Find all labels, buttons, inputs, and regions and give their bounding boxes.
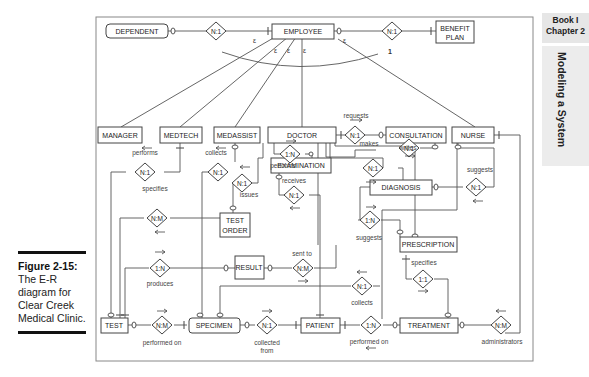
svg-text:N:1: N:1 xyxy=(350,132,361,139)
svg-text:collects: collects xyxy=(351,299,373,306)
rel-testorder-test[interactable]: N:M xyxy=(147,209,167,227)
svg-text:N:1: N:1 xyxy=(471,184,482,191)
svg-text:suggests: suggests xyxy=(356,234,383,242)
svg-text:DIAGNOSIS: DIAGNOSIS xyxy=(382,184,421,191)
svg-text:issues: issues xyxy=(240,191,259,198)
entity-nurse[interactable]: NURSE xyxy=(452,127,494,143)
entity-diagnosis[interactable]: DIAGNOSIS xyxy=(370,180,432,195)
svg-text:MANAGER: MANAGER xyxy=(102,132,137,139)
rel-patient-treatment[interactable]: 1:N xyxy=(361,316,381,334)
rel-treatment-nurse[interactable]: N:M xyxy=(491,316,511,334)
svg-text:N:1: N:1 xyxy=(237,180,248,187)
svg-text:makes: makes xyxy=(359,140,379,147)
entity-specimen[interactable]: SPECIMEN xyxy=(189,318,240,333)
svg-text:PATIENT: PATIENT xyxy=(306,322,335,329)
svg-text:NURSE: NURSE xyxy=(461,132,486,139)
svg-text:collected: collected xyxy=(254,339,280,346)
svg-text:1:N: 1:N xyxy=(155,265,165,272)
rel-specimen-patient[interactable]: N:1 xyxy=(257,316,277,334)
rel-dependent-employee[interactable]: N:1 xyxy=(206,22,226,40)
svg-text:BENEFIT: BENEFIT xyxy=(440,25,470,32)
entity-medassist[interactable]: MEDASSIST xyxy=(214,127,260,143)
svg-text:PRESCRIPTION: PRESCRIPTION xyxy=(402,241,455,248)
er-diagram: DEPENDENT EMPLOYEE BENEFIT PLAN MANAGER … xyxy=(0,0,589,377)
svg-text:N:M: N:M xyxy=(156,322,168,329)
entity-manager[interactable]: MANAGER xyxy=(98,127,142,143)
entity-treatment[interactable]: TREATMENT xyxy=(400,318,458,333)
entity-patient[interactable]: PATIENT xyxy=(301,318,340,333)
entity-prescription[interactable]: PRESCRIPTION xyxy=(400,237,457,252)
svg-text:N:1: N:1 xyxy=(368,165,379,172)
rel-prescription-treatment[interactable]: 1:1 xyxy=(413,270,433,288)
entity-test[interactable]: TEST xyxy=(101,318,128,333)
entity-doctor[interactable]: DOCTOR xyxy=(268,127,336,143)
rel-doctor-diagnosis[interactable]: N:1 xyxy=(363,159,383,177)
svg-text:TEST: TEST xyxy=(105,322,124,329)
rel-diagnosis-prescription[interactable]: 1:N xyxy=(360,211,380,229)
generalization-markers: ε ε ε ε ε 1 xyxy=(253,37,392,55)
rel-specimen-nurse[interactable]: N:1 xyxy=(352,277,372,295)
svg-text:sent to: sent to xyxy=(292,250,312,257)
rel-examination-patient[interactable]: N:1 xyxy=(284,186,304,204)
rel-test-specimen[interactable]: N:M xyxy=(152,316,172,334)
svg-text:N:1: N:1 xyxy=(140,169,151,176)
svg-text:produces: produces xyxy=(147,280,174,288)
svg-text:N:1: N:1 xyxy=(213,169,224,176)
svg-text:N:M: N:M xyxy=(495,322,507,329)
rel-employee-benefit[interactable]: N:1 xyxy=(382,22,402,40)
entity-consultation[interactable]: CONSULTATION xyxy=(386,127,446,143)
svg-text:N:1: N:1 xyxy=(211,28,222,35)
svg-text:ε: ε xyxy=(274,47,277,54)
entity-employee[interactable]: EMPLOYEE xyxy=(272,24,334,39)
svg-text:ε: ε xyxy=(253,37,256,44)
entity-medtech[interactable]: MEDTECH xyxy=(160,127,202,143)
svg-text:DOCTOR: DOCTOR xyxy=(287,132,317,139)
svg-text:ε: ε xyxy=(303,47,306,54)
svg-text:suggests: suggests xyxy=(467,166,494,174)
svg-text:receives: receives xyxy=(282,177,307,184)
svg-text:TEST: TEST xyxy=(226,217,245,224)
rel-medtech-test[interactable]: N:1 xyxy=(135,163,155,181)
svg-text:ε: ε xyxy=(287,47,290,54)
svg-text:N:1: N:1 xyxy=(387,28,398,35)
svg-text:performs: performs xyxy=(132,149,158,157)
entity-benefit-plan[interactable]: BENEFIT PLAN xyxy=(436,21,474,43)
svg-text:CONSULTATION: CONSULTATION xyxy=(389,132,442,139)
entity-result[interactable]: RESULT xyxy=(235,256,264,279)
rel-result-doctor[interactable]: N:M xyxy=(293,259,313,277)
svg-text:administrators: administrators xyxy=(482,338,524,345)
svg-text:MEDTECH: MEDTECH xyxy=(164,132,199,139)
svg-text:collects: collects xyxy=(205,149,227,156)
svg-text:N:1: N:1 xyxy=(262,322,273,329)
connector-lines xyxy=(111,31,520,333)
svg-text:specifies: specifies xyxy=(411,259,437,267)
svg-text:1: 1 xyxy=(388,48,392,55)
svg-text:ORDER: ORDER xyxy=(222,227,247,234)
svg-text:N:1: N:1 xyxy=(289,192,300,199)
svg-text:1:N: 1:N xyxy=(366,322,376,329)
entity-dependent[interactable]: DEPENDENT xyxy=(106,24,168,38)
svg-text:performed on: performed on xyxy=(143,339,182,347)
entity-test-order[interactable]: TEST ORDER xyxy=(220,213,250,237)
svg-text:1:N: 1:N xyxy=(285,151,295,158)
svg-text:N:1: N:1 xyxy=(357,283,368,290)
svg-text:N:M: N:M xyxy=(297,265,309,272)
svg-text:PLAN: PLAN xyxy=(446,34,464,41)
svg-text:performed on: performed on xyxy=(350,338,389,346)
svg-text:N:M: N:M xyxy=(151,215,163,222)
svg-text:writes: writes xyxy=(399,144,418,151)
rel-test-result[interactable]: 1:N xyxy=(150,259,170,277)
rel-nurse-diagnosis[interactable]: N:1 xyxy=(466,178,486,196)
rel-medassist-specimen[interactable]: N:1 xyxy=(208,163,228,181)
svg-text:1:1: 1:1 xyxy=(418,276,427,283)
svg-text:specifies: specifies xyxy=(142,185,168,193)
rel-doctor-testorder[interactable]: N:1 xyxy=(232,174,252,192)
svg-text:performs: performs xyxy=(270,162,296,170)
svg-text:SPECIMEN: SPECIMEN xyxy=(196,322,233,329)
svg-text:from: from xyxy=(261,347,274,354)
svg-text:1:N: 1:N xyxy=(365,217,375,224)
svg-text:requests: requests xyxy=(344,112,370,120)
svg-text:DEPENDENT: DEPENDENT xyxy=(115,28,159,35)
svg-text:MEDASSIST: MEDASSIST xyxy=(217,132,258,139)
svg-text:RESULT: RESULT xyxy=(235,264,263,271)
